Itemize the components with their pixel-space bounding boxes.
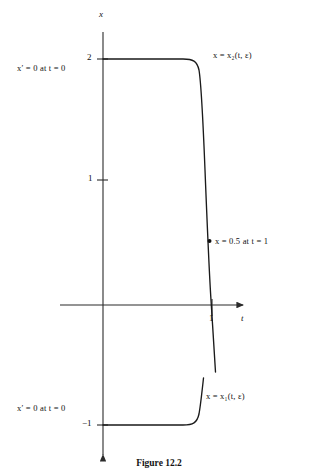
tick-label-x-neg1: −1 xyxy=(82,418,92,428)
tick-label-x-1: 1 xyxy=(88,173,93,183)
annotation-crossing-point: x = 0.5 at t = 1 xyxy=(215,236,268,246)
curve-lower-branch xyxy=(103,378,204,425)
annotation-lower-branch: x = x₁(t, ε) xyxy=(206,391,245,401)
x-axis-label: x xyxy=(99,9,103,19)
t-axis-label: t xyxy=(241,313,244,323)
figure-container: x t 2 1 −1 1 x = x₂(t, ε) x = x₁(t, ε) x… xyxy=(0,0,318,471)
annotation-initial-condition-bottom: x′ = 0 at t = 0 xyxy=(17,403,65,413)
crossing-point-marker xyxy=(208,239,212,243)
tick-label-x-2: 2 xyxy=(87,52,92,62)
annotation-initial-condition-top: x′ = 0 at t = 0 xyxy=(17,63,65,73)
curve-upper-branch xyxy=(103,59,216,372)
annotation-upper-branch: x = x₂(t, ε) xyxy=(213,50,252,60)
figure-caption: Figure 12.2 xyxy=(0,458,318,471)
tick-label-t-1: 1 xyxy=(209,313,214,323)
